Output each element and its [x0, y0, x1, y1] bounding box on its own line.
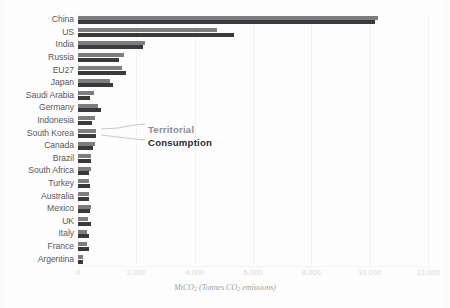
leader-line-territorial: [101, 124, 145, 129]
leader-line-consumption: [101, 135, 145, 140]
annotation-leader-lines: [0, 0, 450, 308]
annotation-label-territorial: Territorial: [148, 124, 194, 135]
annotation-label-consumption: Consumption: [148, 137, 212, 148]
bar-chart: ChinaUSIndiaRussiaEU27JapanSaudi ArabiaG…: [0, 0, 450, 308]
